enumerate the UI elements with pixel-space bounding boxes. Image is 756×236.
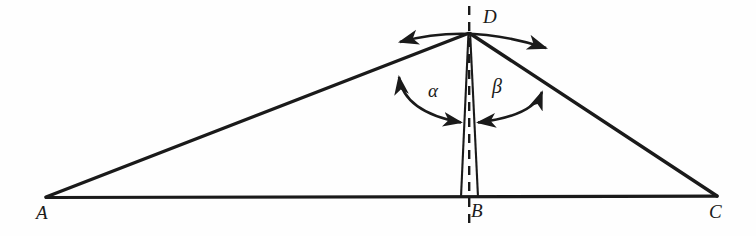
vertex-label-c: C: [709, 202, 722, 221]
cevian-segment-left: [461, 35, 468, 197]
side-segment-AD: [46, 34, 468, 198]
base-segment-AC: [46, 196, 717, 197]
angle-label-alpha: α: [428, 81, 438, 100]
figure-canvas: [0, 0, 756, 236]
angle-label-beta: β: [492, 76, 502, 96]
side-segment-DC: [470, 34, 717, 197]
vertex-label-a: A: [36, 203, 48, 222]
beta-angle-arc: [478, 92, 542, 123]
vertex-label-d: D: [483, 7, 497, 26]
geometry-figure: A B C D α β: [0, 0, 756, 236]
vertex-label-b: B: [471, 201, 483, 220]
cevian-segment-right: [470, 35, 478, 197]
